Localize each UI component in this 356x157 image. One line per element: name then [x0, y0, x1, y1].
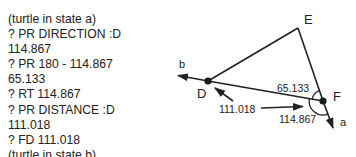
state-a-label: a	[340, 116, 347, 128]
heading-b-arrow	[178, 76, 208, 82]
angle-inner-label: 65.133	[277, 82, 309, 94]
point-d-label: D	[197, 86, 206, 101]
distance-pointer-left	[215, 88, 233, 101]
distance-label: 111.018	[219, 103, 256, 115]
point-d-dot	[204, 77, 211, 84]
angle-turn-label: 114.867	[279, 113, 316, 125]
edge-de	[208, 28, 298, 81]
angle-arc-inner	[312, 91, 319, 100]
point-f-label: F	[333, 89, 341, 104]
triangle-diagram: E D F b a 65.133 114.867 111.018	[0, 0, 356, 157]
point-e-label: E	[304, 12, 313, 27]
point-f-dot	[319, 97, 326, 104]
distance-pointer-right	[261, 107, 303, 109]
state-b-label: b	[179, 58, 185, 70]
